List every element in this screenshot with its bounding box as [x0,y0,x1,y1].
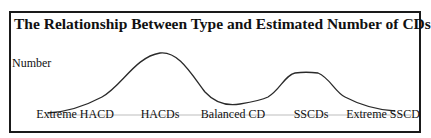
x-label-balanced-cd: Balanced CD [201,107,265,122]
x-label-hacds: HACDs [141,107,180,122]
x-label-extreme-hacd: Extreme HACD [36,107,114,122]
bimodal-curve [48,53,395,113]
x-label-extreme-sscd: Extreme SSCD [346,107,420,122]
x-label-sscds: SSCDs [294,107,329,122]
